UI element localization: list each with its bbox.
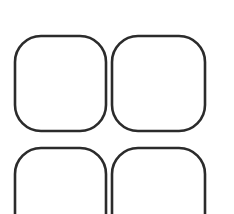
image-canvas — [0, 0, 234, 214]
canvas-background — [0, 0, 234, 214]
rounded-square-grid — [0, 0, 234, 214]
